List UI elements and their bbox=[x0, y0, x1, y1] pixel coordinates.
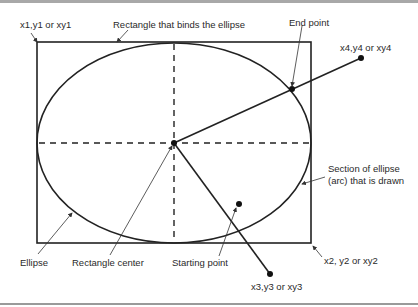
label-arc-1: Section of ellipse bbox=[328, 163, 400, 174]
label-xy4: x4,y4 or xy4 bbox=[340, 42, 391, 53]
label-rect-center: Rectangle center bbox=[72, 257, 144, 268]
end-point-leader bbox=[292, 26, 302, 86]
label-start-point: Starting point bbox=[172, 257, 228, 268]
label-xy3: x3,y3 or xy3 bbox=[251, 281, 302, 292]
start-radial-line bbox=[174, 143, 270, 274]
bottom-rule bbox=[0, 303, 418, 305]
label-xy2: x2, y2 or xy2 bbox=[324, 255, 378, 266]
xy4-point bbox=[358, 55, 364, 61]
label-bounding-rect: Rectangle that binds the ellipse bbox=[113, 19, 245, 30]
xy1-leader bbox=[31, 33, 37, 42]
label-end-point: End point bbox=[289, 17, 330, 28]
end-point-marker bbox=[289, 86, 295, 92]
xy3-point bbox=[267, 271, 273, 277]
center-point bbox=[171, 140, 177, 146]
label-ellipse: Ellipse bbox=[20, 257, 48, 268]
ellipse-leader bbox=[38, 213, 72, 254]
top-rule bbox=[0, 0, 418, 3]
xy2-leader bbox=[313, 246, 322, 257]
label-xy1: x1,y1 or xy1 bbox=[20, 19, 71, 30]
center-leader bbox=[110, 146, 172, 255]
arc-leader bbox=[302, 177, 325, 184]
ellipse-arc-diagram: x1,y1 or xy1 Rectangle that binds the el… bbox=[0, 0, 418, 307]
label-arc-2: (arc) that is drawn bbox=[328, 175, 404, 186]
start-point-marker bbox=[236, 201, 242, 207]
rect-leader bbox=[117, 30, 128, 42]
